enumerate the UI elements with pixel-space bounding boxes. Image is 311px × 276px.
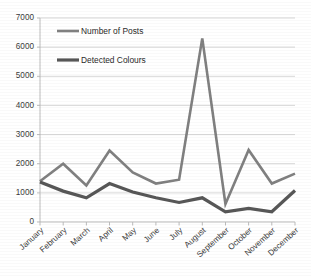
legend-label-colours: Detected Colours — [81, 55, 146, 65]
legend-label-posts: Number of Posts — [81, 26, 143, 36]
chart-canvas: 7000 6000 5000 4000 3000 2000 1000 0 Jan… — [0, 0, 311, 276]
y-tick-label: 4000 — [16, 101, 35, 110]
y-tick-label: 5000 — [16, 71, 35, 80]
y-tick-label: 0 — [29, 217, 34, 226]
y-tick-label: 7000 — [16, 13, 35, 22]
y-tick-label: 6000 — [16, 42, 35, 51]
y-tick-label: 2000 — [16, 159, 35, 168]
chart-screenshot: 7000 6000 5000 4000 3000 2000 1000 0 Jan… — [0, 0, 311, 276]
line-chart: 7000 6000 5000 4000 3000 2000 1000 0 Jan… — [0, 0, 311, 276]
y-tick-label: 1000 — [16, 188, 35, 197]
y-tick-label: 3000 — [16, 130, 35, 139]
